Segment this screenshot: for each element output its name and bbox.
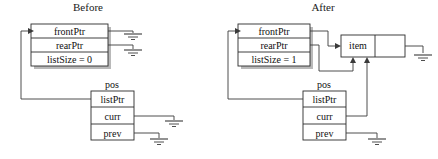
panel-after: After frontPtr rearPtr listSize = 1 item xyxy=(228,1,432,145)
after-node-next-gnd-icon xyxy=(414,55,432,61)
pointer-diagram-svg: Before frontPtr rearPtr listSize = 0 xyxy=(0,0,438,159)
after-pos-field-curr: curr xyxy=(316,111,333,122)
after-field-listsize: listSize = 1 xyxy=(251,54,296,65)
after-pos-field-listptr: listPtr xyxy=(313,94,338,105)
before-frontptr-gnd-icon xyxy=(124,34,142,40)
after-frontptr-arrowhead xyxy=(335,43,341,49)
before-curr-wire xyxy=(134,116,174,120)
figure-canvas: Before frontPtr rearPtr listSize = 0 xyxy=(0,0,438,159)
before-frontptr-wire xyxy=(108,31,133,33)
after-field-frontptr: frontPtr xyxy=(258,26,290,37)
after-prev-wire xyxy=(346,133,377,138)
after-item-node-data-cell: item xyxy=(349,40,367,51)
panel-title-before: Before xyxy=(73,1,103,13)
after-curr-arrowhead xyxy=(364,57,370,63)
after-field-rearptr: rearPtr xyxy=(260,40,288,51)
before-field-frontptr: frontPtr xyxy=(54,26,86,37)
after-prev-gnd-icon xyxy=(368,139,386,145)
after-rearptr-arrowhead xyxy=(350,57,356,63)
before-field-listsize: listSize = 0 xyxy=(47,54,92,65)
before-field-rearptr: rearPtr xyxy=(56,40,84,51)
before-pos-name: pos xyxy=(105,79,119,90)
before-pos-field-listptr: listPtr xyxy=(101,94,126,105)
before-rearptr-wire xyxy=(108,45,133,49)
after-pos-field-prev: prev xyxy=(316,128,334,139)
before-prev-wire xyxy=(134,133,159,138)
before-prev-gnd-icon xyxy=(150,139,168,145)
panel-before: Before frontPtr rearPtr listSize = 0 xyxy=(21,1,183,145)
before-curr-gnd-icon xyxy=(165,121,183,127)
after-node-next-wire xyxy=(405,46,423,53)
before-pos-field-prev: prev xyxy=(104,128,122,139)
after-frontptr-wire xyxy=(310,31,335,46)
panel-title-after: After xyxy=(311,1,335,13)
before-pos-field-curr: curr xyxy=(104,111,121,122)
after-pos-name: pos xyxy=(317,79,331,90)
before-rearptr-gnd-icon xyxy=(124,50,142,56)
